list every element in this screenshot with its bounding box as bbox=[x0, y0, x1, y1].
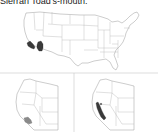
us-overview-map bbox=[24, 12, 139, 70]
range-maps bbox=[0, 0, 158, 132]
west-inset-right-map bbox=[92, 79, 134, 130]
west-inset-left-map bbox=[16, 79, 58, 130]
